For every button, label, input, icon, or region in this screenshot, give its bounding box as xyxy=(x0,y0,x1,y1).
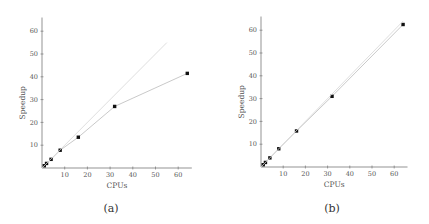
y-tick-label: 60 xyxy=(249,26,257,34)
data-point-marker xyxy=(77,136,80,139)
caption-a: (a) xyxy=(103,202,118,215)
y-tick-label: 30 xyxy=(30,96,38,104)
data-point-marker xyxy=(113,105,116,108)
x-tick-label: 20 xyxy=(301,170,309,178)
y-tick-label: 40 xyxy=(30,73,38,81)
x-tick-label: 30 xyxy=(106,171,114,179)
x-axis-label: CPUs xyxy=(324,180,345,189)
y-tick-label: 30 xyxy=(249,95,257,103)
x-tick-label: 30 xyxy=(323,170,331,178)
x-tick-label: 20 xyxy=(83,171,91,179)
x-tick-label: 40 xyxy=(129,171,137,179)
y-axis-label: Speedup xyxy=(237,85,246,118)
ideal-speedup-line xyxy=(42,43,167,168)
chart-panel-b: 102030405060102030405060CPUsSpeedup xyxy=(237,17,408,189)
data-point-marker xyxy=(186,72,189,75)
ideal-speedup-line xyxy=(261,21,403,167)
x-tick-label: 60 xyxy=(174,171,182,179)
y-tick-label: 50 xyxy=(249,49,257,57)
y-tick-label: 10 xyxy=(30,141,38,149)
data-point-marker xyxy=(401,23,404,26)
x-axis-label: CPUs xyxy=(106,181,127,190)
measured-speedup-line xyxy=(44,73,187,165)
figure: 102030405060102030405060CPUsSpeedup 1020… xyxy=(0,0,429,224)
y-tick-label: 60 xyxy=(30,27,38,35)
x-tick-label: 10 xyxy=(61,171,69,179)
y-tick-label: 50 xyxy=(30,50,38,58)
x-tick-label: 10 xyxy=(279,170,287,178)
x-tick-label: 60 xyxy=(390,170,398,178)
y-axis-label: Speedup xyxy=(18,86,27,119)
x-tick-label: 50 xyxy=(368,170,376,178)
chart-panel-a: 102030405060102030405060CPUsSpeedup xyxy=(18,18,192,190)
caption-b: (b) xyxy=(324,202,340,215)
y-tick-label: 40 xyxy=(249,72,257,80)
y-tick-label: 10 xyxy=(249,140,257,148)
y-tick-label: 20 xyxy=(30,119,38,127)
y-tick-label: 20 xyxy=(249,118,257,126)
x-tick-label: 40 xyxy=(346,170,354,178)
x-tick-label: 50 xyxy=(151,171,159,179)
